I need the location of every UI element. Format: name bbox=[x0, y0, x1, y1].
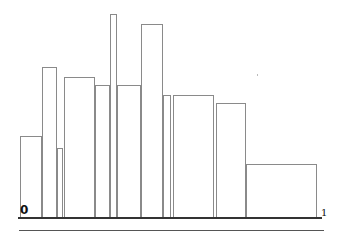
histogram-bar bbox=[64, 77, 95, 217]
histogram-bar bbox=[216, 103, 246, 217]
histogram-chart: 0 1 bbox=[0, 0, 342, 240]
x-axis-start-label: 0 bbox=[20, 203, 28, 217]
stray-mark bbox=[257, 74, 258, 76]
x-axis-end-label: 1 bbox=[321, 207, 327, 218]
histogram-bar bbox=[141, 24, 163, 217]
histogram-bar bbox=[173, 95, 214, 217]
histogram-bar bbox=[117, 85, 141, 217]
x-axis-baseline bbox=[18, 217, 322, 219]
histogram-bar bbox=[246, 164, 317, 217]
histogram-bar bbox=[110, 14, 117, 217]
histogram-bar bbox=[57, 148, 63, 217]
histogram-bar bbox=[42, 67, 57, 217]
histogram-bar bbox=[163, 95, 171, 217]
bottom-rule bbox=[19, 230, 324, 231]
histogram-bar bbox=[95, 85, 110, 217]
